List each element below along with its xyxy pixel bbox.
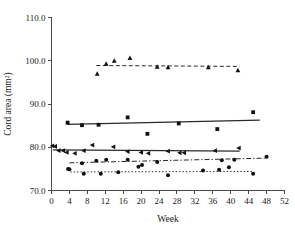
data-point-triangle-up <box>166 65 171 70</box>
x-tick-label: 36 <box>208 196 218 206</box>
x-tick-label: 52 <box>280 196 289 206</box>
data-point-circle <box>136 165 140 169</box>
data-point-triangle-up <box>104 61 109 65</box>
data-point-circle <box>104 158 108 162</box>
data-point-circle <box>67 167 71 171</box>
data-point-circle <box>94 159 98 163</box>
data-point-triangle-left <box>165 149 170 154</box>
data-point-circle <box>80 161 84 165</box>
data-point-circle <box>201 169 205 173</box>
data-point-circle <box>217 168 221 172</box>
data-point-circle <box>116 170 120 174</box>
trend-line-circle-upper-series <box>69 158 267 163</box>
y-tick-label: 90.0 <box>30 99 46 109</box>
x-tick-label: 28 <box>172 196 182 206</box>
data-point-triangle-up <box>155 64 160 69</box>
data-point-triangle-left <box>236 146 241 151</box>
data-point-triangle-left <box>81 148 86 153</box>
data-point-square <box>97 123 101 127</box>
data-point-square <box>145 132 149 136</box>
data-point-triangle-up <box>128 56 133 61</box>
data-point-square <box>177 122 181 126</box>
trend-line-triangle-left-series <box>53 150 240 151</box>
data-point-circle <box>82 172 86 176</box>
data-point-triangle-left <box>146 151 151 156</box>
data-point-square <box>215 127 219 131</box>
data-point-triangle-left <box>90 143 95 148</box>
data-point-circle <box>126 158 130 162</box>
data-point-circle <box>155 160 159 164</box>
data-point-circle <box>220 158 224 162</box>
data-point-circle <box>251 172 255 176</box>
data-point-square <box>80 123 84 127</box>
data-point-circle <box>140 163 144 167</box>
data-point-triangle-up <box>112 58 117 63</box>
x-tick-label: 4 <box>67 196 72 206</box>
trend-line-square-series <box>67 120 260 124</box>
data-point-triangle-left <box>111 144 116 149</box>
x-axis-title: Week <box>157 214 179 224</box>
y-tick-label: 110.0 <box>26 13 46 23</box>
data-point-triangle-up <box>236 68 241 73</box>
data-point-circle <box>166 173 170 177</box>
data-point-triangle-left <box>212 148 217 153</box>
x-tick-label: 48 <box>262 196 272 206</box>
data-point-circle <box>232 158 236 162</box>
data-point-square <box>126 116 130 120</box>
x-tick-label: 24 <box>155 196 165 206</box>
data-point-triangle-up <box>95 71 100 76</box>
x-tick-label: 16 <box>119 196 129 206</box>
y-tick-label: 80.0 <box>30 142 46 152</box>
data-point-circle <box>227 165 231 169</box>
x-tick-label: 44 <box>244 196 254 206</box>
x-tick-label: 40 <box>226 196 236 206</box>
data-point-square <box>251 110 255 114</box>
x-tick-label: 20 <box>137 196 147 206</box>
x-tick-label: 32 <box>190 196 199 206</box>
data-point-triangle-left <box>56 148 61 153</box>
y-axis-title: Cord area (mm²) <box>3 72 14 136</box>
data-point-circle <box>99 172 103 176</box>
data-point-triangle-up <box>206 65 211 70</box>
chart-plot-area: 70.080.090.0100.0110.0048121620242832364… <box>0 0 295 234</box>
x-tick-label: 12 <box>101 196 110 206</box>
x-tick-label: 8 <box>85 196 90 206</box>
cord-area-scatter-chart: 70.080.090.0100.0110.0048121620242832364… <box>0 0 295 234</box>
data-point-triangle-left <box>72 151 77 156</box>
data-point-square <box>66 121 70 125</box>
y-tick-label: 100.0 <box>25 56 46 66</box>
data-point-circle <box>265 155 269 159</box>
x-tick-label: 0 <box>49 196 54 206</box>
y-tick-label: 70.0 <box>30 186 46 196</box>
